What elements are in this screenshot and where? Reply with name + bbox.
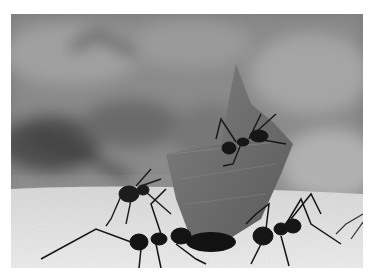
- ant-carrier: [186, 232, 236, 252]
- ant-photo: [11, 14, 363, 268]
- ant-scene: [11, 14, 363, 268]
